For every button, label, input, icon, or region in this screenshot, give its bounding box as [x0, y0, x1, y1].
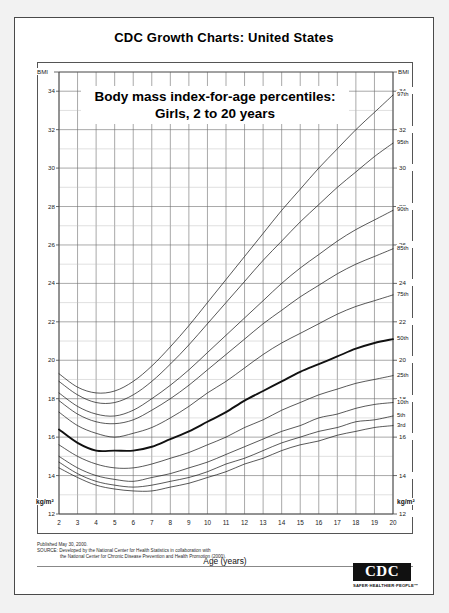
y-tick-right-14: 14	[398, 472, 416, 479]
chart-subtitle-line2: Girls, 2 to 20 years	[155, 106, 275, 121]
percentile-label-25th: 25th	[396, 372, 409, 378]
percentile-curves	[37, 62, 413, 534]
percentile-label-85th: 85th	[396, 245, 409, 251]
percentile-curve-50th	[59, 339, 393, 451]
x-tick-2: 2	[51, 519, 67, 526]
x-tick-18: 18	[348, 519, 364, 526]
percentile-label-50th: 50th	[396, 335, 409, 341]
x-tick-13: 13	[255, 519, 271, 526]
x-tick-6: 6	[125, 519, 141, 526]
x-tick-19: 19	[366, 519, 382, 526]
cdc-logo-tagline: SAFER·HEALTHIER·PEOPLE™	[353, 583, 411, 588]
cdc-logo: CDC SAFER·HEALTHIER·PEOPLE™	[353, 563, 411, 588]
percentile-curve-85th	[59, 249, 393, 424]
page-title: CDC Growth Charts: United States	[15, 30, 433, 45]
y-tick-left-26: 26	[38, 241, 56, 248]
chart-area: Body mass index-for-age percentiles: Gir…	[37, 62, 413, 534]
y-tick-left-12: 12	[38, 510, 56, 517]
x-tick-5: 5	[107, 519, 123, 526]
x-tick-7: 7	[144, 519, 160, 526]
y-tick-left-16: 16	[38, 433, 56, 440]
y-tick-left-24: 24	[38, 279, 56, 286]
x-tick-10: 10	[199, 519, 215, 526]
y-axis-header-left: BMI	[36, 68, 49, 75]
percentile-curve-10th	[59, 403, 393, 482]
y-tick-right-12: 12	[398, 510, 416, 517]
percentile-curve-97th	[59, 95, 393, 393]
percentile-label-5th: 5th	[396, 412, 406, 418]
y-tick-right-22: 22	[398, 318, 416, 325]
footer-note: Published May 30, 2000. SOURCE: Develope…	[37, 542, 337, 561]
y-axis-unit-left: kg/m²	[35, 498, 55, 505]
y-tick-left-32: 32	[38, 126, 56, 133]
y-tick-right-30: 30	[398, 164, 416, 171]
y-tick-right-32: 32	[398, 126, 416, 133]
y-tick-right-16: 16	[398, 433, 416, 440]
x-tick-12: 12	[237, 519, 253, 526]
x-tick-8: 8	[162, 519, 178, 526]
y-axis-header-right: BMI	[397, 68, 410, 75]
percentile-label-90th: 90th	[396, 206, 409, 212]
percentile-curve-95th	[59, 143, 393, 403]
y-tick-left-30: 30	[38, 164, 56, 171]
x-tick-15: 15	[292, 519, 308, 526]
y-tick-right-24: 24	[398, 279, 416, 286]
percentile-label-95th: 95th	[396, 139, 409, 145]
y-axis-unit-right: kg/m²	[396, 498, 416, 505]
y-tick-left-22: 22	[38, 318, 56, 325]
percentile-curve-3rd	[59, 426, 393, 492]
footer-source-line1: SOURCE: Developed by the National Center…	[37, 548, 211, 553]
percentile-label-75th: 75th	[396, 291, 409, 297]
percentile-label-3rd: 3rd	[396, 422, 407, 428]
x-tick-14: 14	[274, 519, 290, 526]
x-tick-4: 4	[88, 519, 104, 526]
x-tick-17: 17	[329, 519, 345, 526]
x-tick-20: 20	[385, 519, 401, 526]
footer-published: Published May 30, 2000.	[37, 542, 88, 547]
x-tick-9: 9	[181, 519, 197, 526]
percentile-label-97th: 97th	[396, 91, 409, 97]
y-tick-left-28: 28	[38, 203, 56, 210]
y-tick-left-20: 20	[38, 356, 56, 363]
chart-subtitle-line1: Body mass index-for-age percentiles:	[95, 89, 336, 104]
y-tick-right-20: 20	[398, 356, 416, 363]
percentile-curve-90th	[59, 210, 393, 416]
y-tick-left-14: 14	[38, 472, 56, 479]
footer-source-line2: the National Center for Chronic Disease …	[37, 554, 337, 560]
x-tick-11: 11	[218, 519, 234, 526]
x-tick-3: 3	[70, 519, 86, 526]
y-tick-left-34: 34	[38, 87, 56, 94]
chart-page: CDC Growth Charts: United States Body ma…	[14, 17, 434, 595]
chart-subtitle: Body mass index-for-age percentiles: Gir…	[81, 86, 349, 124]
y-tick-left-18: 18	[38, 395, 56, 402]
x-tick-16: 16	[311, 519, 327, 526]
cdc-logo-mark: CDC	[353, 563, 411, 581]
percentile-label-10th: 10th	[396, 399, 409, 405]
